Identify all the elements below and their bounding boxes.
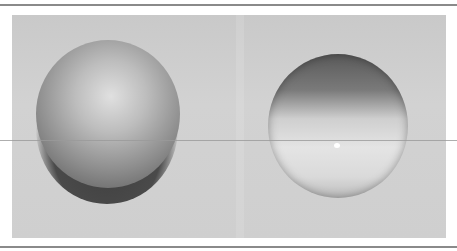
right-sphere xyxy=(268,54,408,198)
top-border xyxy=(0,4,457,6)
photo-seam xyxy=(236,15,244,238)
horizontal-guide-line xyxy=(0,140,457,141)
left-sphere xyxy=(36,40,180,188)
bottom-border xyxy=(0,246,457,248)
right-sphere-highlight xyxy=(334,143,340,148)
